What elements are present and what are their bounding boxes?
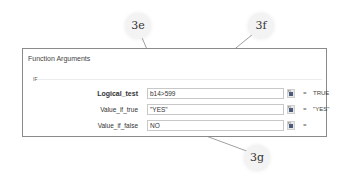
function-arguments-dialog: Function Arguments IF Logical_test b14>5… bbox=[22, 48, 327, 137]
logical-test-input[interactable]: b14>599 bbox=[147, 88, 284, 99]
collapse-dialog-icon bbox=[288, 122, 294, 129]
function-separator bbox=[37, 79, 322, 80]
equals-sign: = bbox=[303, 106, 307, 112]
argument-label: Logical_test bbox=[97, 90, 138, 97]
value-if-false-input[interactable]: NO bbox=[147, 120, 284, 131]
callout-3e: 3e bbox=[125, 13, 151, 39]
argument-row-value-if-true: Value_if_true "YES" = "YES" bbox=[23, 104, 326, 116]
argument-row-value-if-false: Value_if_false NO = bbox=[23, 120, 326, 132]
collapse-dialog-icon bbox=[288, 106, 294, 113]
argument-label: Value_if_false bbox=[98, 122, 138, 129]
collapse-dialog-button[interactable] bbox=[287, 105, 295, 114]
argument-result: "YES" bbox=[313, 106, 329, 112]
collapse-dialog-button[interactable] bbox=[287, 89, 295, 98]
collapse-dialog-icon bbox=[288, 90, 294, 97]
argument-row-logical-test: Logical_test b14>599 = TRUE bbox=[23, 88, 326, 100]
equals-sign: = bbox=[303, 122, 307, 128]
value-if-true-input[interactable]: "YES" bbox=[147, 104, 284, 115]
collapse-dialog-button[interactable] bbox=[287, 121, 295, 130]
callout-3f: 3f bbox=[248, 13, 274, 39]
equals-sign: = bbox=[303, 90, 307, 96]
callout-3g: 3g bbox=[244, 145, 270, 171]
dialog-title: Function Arguments bbox=[28, 55, 90, 62]
argument-label: Value_if_true bbox=[100, 106, 138, 113]
argument-result: TRUE bbox=[313, 90, 329, 96]
